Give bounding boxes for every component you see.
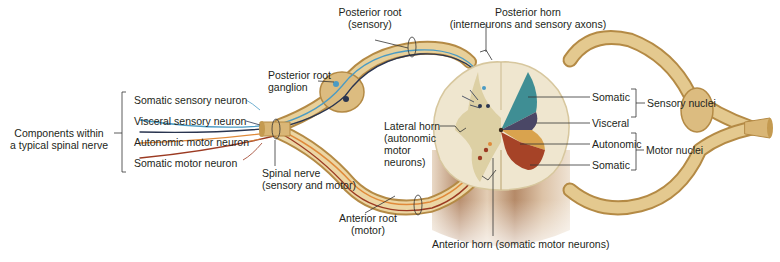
posterior-root-label: Posterior root (sensory) <box>332 6 408 30</box>
posterior-horn-line-1: Posterior horn <box>448 6 608 18</box>
central-canal <box>499 128 503 132</box>
somatic-motor-nucleus-label: Somatic <box>592 159 630 171</box>
somatic-sensory-neuron-label: Somatic sensory neuron <box>134 94 247 106</box>
posterior-horn-label: Posterior horn (interneurons and sensory… <box>448 6 608 30</box>
components-label: Components within a typical spinal nerve <box>0 127 118 151</box>
anterior-root-line-1: Anterior root <box>330 212 406 224</box>
lateral-horn-line-1: Lateral horn <box>384 120 440 132</box>
sensory-nuclei-label: Sensory nuclei <box>647 97 716 109</box>
spinal-nerve-line-2: (sensory and motor) <box>262 179 356 191</box>
lateral-horn-line-3: motor <box>384 144 440 156</box>
autonomic-nucleus-label: Autonomic <box>592 138 642 150</box>
lateral-horn-line-2: (autonomic <box>384 132 440 144</box>
somatic-sensory-nucleus-label: Somatic <box>592 91 630 103</box>
posterior-root-ganglion-label: Posterior root ganglion <box>268 69 331 93</box>
anterior-root-line-2: (motor) <box>330 224 406 236</box>
posterior-horn-line-2: (interneurons and sensory axons) <box>448 18 608 30</box>
spinal-nerve-diagram: Components within a typical spinal nerve… <box>0 0 780 262</box>
posterior-root-ganglion-line-2: ganglion <box>268 81 331 93</box>
somatic-motor-neuron-label: Somatic motor neuron <box>134 157 237 169</box>
motor-nuclei-label: Motor nuclei <box>646 144 703 156</box>
posterior-root-line-2: (sensory) <box>332 18 408 30</box>
lateral-horn-label: Lateral horn (autonomic motor neurons) <box>384 120 440 168</box>
posterior-root-ganglion-line-1: Posterior root <box>268 69 331 81</box>
anterior-root-label: Anterior root (motor) <box>330 212 406 236</box>
spinal-nerve-trunk <box>259 121 290 137</box>
autonomic-motor-neuron-label: Autonomic motor neuron <box>134 136 249 148</box>
components-line-2: a typical spinal nerve <box>0 139 118 151</box>
lateral-horn-line-4: neurons) <box>384 156 440 168</box>
anterior-horn-label: Anterior horn (somatic motor neurons) <box>432 238 609 250</box>
spinal-nerve-label: Spinal nerve (sensory and motor) <box>262 167 356 191</box>
components-line-1: Components within <box>0 127 118 139</box>
visceral-cell-body <box>343 96 349 102</box>
visceral-nucleus-label: Visceral <box>592 117 629 129</box>
spinal-nerve-line-1: Spinal nerve <box>262 167 356 179</box>
visceral-sensory-neuron-label: Visceral sensory neuron <box>134 115 246 127</box>
posterior-root-line-1: Posterior root <box>332 6 408 18</box>
